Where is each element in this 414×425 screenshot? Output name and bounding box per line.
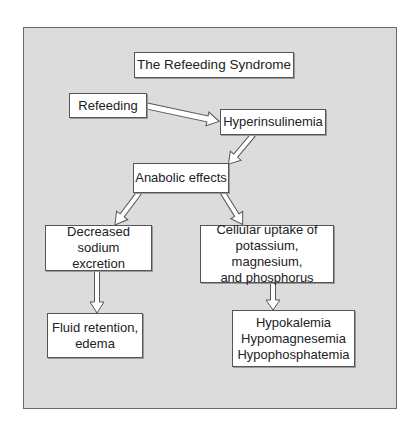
- node-decreased-sodium-excretion: Decreased sodium excretion: [45, 225, 152, 271]
- node-electrolyte-disorders: Hypokalemia Hypomagnesemia Hypophosphate…: [232, 310, 355, 367]
- node-refeeding: Refeeding: [69, 93, 147, 118]
- node-fluid-retention: Fluid retention, edema: [47, 313, 143, 358]
- title-box: The Refeeding Syndrome: [134, 52, 294, 78]
- node-cellular-uptake: Cellular uptake of potassium, magnesium,…: [200, 225, 334, 283]
- node-hyperinsulinemia: Hyperinsulinemia: [220, 109, 326, 135]
- node-anabolic-effects: Anabolic effects: [133, 163, 229, 193]
